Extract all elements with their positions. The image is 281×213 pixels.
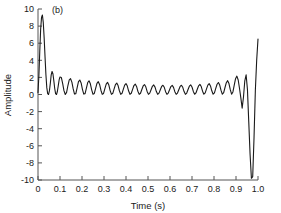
x-tick-label: 0.2 xyxy=(76,184,89,194)
x-tick-label: 0.9 xyxy=(230,184,243,194)
x-tick-label: 0.3 xyxy=(98,184,111,194)
x-tick-label: 0.7 xyxy=(186,184,199,194)
x-tick-label: 0.4 xyxy=(120,184,133,194)
chart-canvas: 00.10.20.30.40.50.60.70.80.91.0 -10-8-6-… xyxy=(0,0,281,213)
y-tick-label: 0 xyxy=(29,90,34,100)
x-tick-label: 0.8 xyxy=(208,184,221,194)
y-tick-label: 4 xyxy=(29,56,34,66)
x-tick-label: 0 xyxy=(35,184,40,194)
y-tick-label: -8 xyxy=(26,158,34,168)
y-tick-label: -2 xyxy=(26,107,34,117)
y-tick-label: 8 xyxy=(29,21,34,31)
x-axis-title: Time (s) xyxy=(131,200,165,211)
y-tick-label: -4 xyxy=(26,124,34,134)
y-tick-label: -10 xyxy=(21,175,34,185)
x-tick-label: 0.1 xyxy=(54,184,67,194)
figure-panel-b: 00.10.20.30.40.50.60.70.80.91.0 -10-8-6-… xyxy=(0,0,281,213)
y-tick-label: 10 xyxy=(24,4,34,14)
chart-background xyxy=(0,0,281,213)
x-tick-label: 0.6 xyxy=(164,184,177,194)
x-tick-label: 0.5 xyxy=(142,184,155,194)
y-tick-label: 2 xyxy=(29,73,34,83)
x-tick-label: 1.0 xyxy=(252,184,265,194)
panel-label: (b) xyxy=(52,5,63,15)
y-tick-label: 6 xyxy=(29,38,34,48)
y-tick-label: -6 xyxy=(26,141,34,151)
y-axis-title: Amplitude xyxy=(2,74,13,116)
